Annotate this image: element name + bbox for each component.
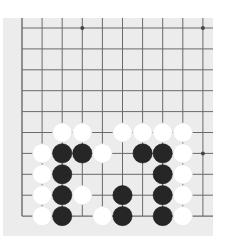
white-stone	[173, 123, 192, 142]
white-stone	[173, 207, 192, 226]
black-stone	[53, 207, 72, 226]
white-stone	[93, 207, 112, 226]
black-stone	[53, 144, 72, 163]
black-stone	[113, 207, 132, 226]
black-stone	[153, 186, 172, 205]
black-stone	[113, 186, 132, 205]
white-stone	[173, 144, 192, 163]
go-board-grid[interactable]	[3, 18, 213, 236]
white-stone	[33, 207, 52, 226]
white-stone	[33, 165, 52, 184]
black-stone	[53, 186, 72, 205]
star-point	[80, 26, 84, 30]
black-stone	[73, 144, 92, 163]
white-stone	[53, 123, 72, 142]
white-stone	[113, 123, 132, 142]
white-stone	[173, 165, 192, 184]
white-stone	[173, 186, 192, 205]
white-stone	[73, 123, 92, 142]
white-stone	[33, 144, 52, 163]
white-stone	[73, 186, 92, 205]
black-stone	[153, 144, 172, 163]
white-stone	[153, 123, 172, 142]
star-point	[201, 26, 205, 30]
black-stone	[153, 165, 172, 184]
black-stone	[133, 144, 152, 163]
go-board[interactable]	[3, 18, 213, 236]
white-stone	[33, 186, 52, 205]
white-stone	[93, 144, 112, 163]
white-stone	[133, 123, 152, 142]
black-stone	[53, 165, 72, 184]
black-stone	[153, 207, 172, 226]
star-point	[201, 151, 205, 155]
